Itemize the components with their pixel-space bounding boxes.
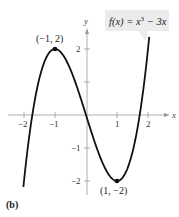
svg-text:2: 2 [146,119,151,129]
svg-text:2: 2 [76,44,81,54]
y-axis-arrow-icon [85,28,89,34]
y-axis-label: y [83,16,88,26]
svg-text:(1, −2): (1, −2) [100,185,127,197]
local-maximum-point: (−1, 2) [36,33,63,51]
svg-text:−1: −1 [71,143,81,153]
svg-text:−2: −2 [71,176,81,186]
local-minimum-point: (1, −2) [100,179,127,197]
function-label: f(x) = x3 − 3x [109,15,167,28]
panel-label: (b) [6,199,18,210]
svg-text:(−1, 2): (−1, 2) [36,33,63,45]
function-curve [23,37,149,187]
cubic-function-graph: f(x) = x3 − 3x x −2 −1 1 2 y 2 −1 −2 (−1… [0,0,179,217]
y-axis: y 2 −1 −2 [71,16,90,195]
svg-text:1: 1 [115,119,120,129]
function-label-callout: f(x) = x3 − 3x [105,10,169,42]
x-axis-arrow-icon [164,113,170,117]
x-axis-label: x [171,110,176,120]
svg-text:−1: −1 [49,119,59,129]
svg-text:−2: −2 [18,119,28,129]
